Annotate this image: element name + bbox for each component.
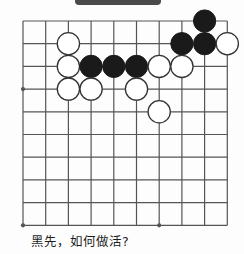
white-stone[interactable] [216,33,238,55]
white-stone[interactable] [148,55,170,77]
star-point [21,223,25,227]
black-stone[interactable] [171,33,193,55]
black-stone[interactable] [103,55,125,77]
star-point [157,223,161,227]
go-board-canvas[interactable] [0,0,244,232]
white-stone[interactable] [57,33,79,55]
star-point [21,87,25,91]
black-stone[interactable] [80,55,102,77]
white-stone[interactable] [148,101,170,123]
white-stone[interactable] [80,78,102,100]
white-stone[interactable] [57,78,79,100]
black-stone[interactable] [193,10,215,32]
white-stone[interactable] [171,55,193,77]
problem-caption: 黑先，如何做活? [31,234,231,250]
go-board[interactable] [0,0,244,232]
black-stone[interactable] [193,33,215,55]
white-stone[interactable] [125,78,147,100]
white-stone[interactable] [57,55,79,77]
black-stone[interactable] [125,55,147,77]
go-problem-figure: 黑先，如何做活? [0,0,244,254]
